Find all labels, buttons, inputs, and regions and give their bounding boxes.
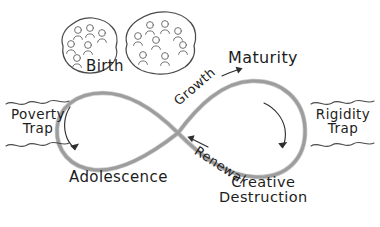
right-loop-rotation-arrow [264,103,287,149]
adaptive-cycle-diagram: Birth Maturity Adolescence Creative Dest… [0,0,380,227]
label-birth: Birth [86,59,124,74]
label-maturity: Maturity [228,50,298,66]
label-poverty-trap: Poverty Trap [6,108,70,136]
growth-arrow [222,67,243,76]
label-poverty-trap-line2: Trap [6,122,70,136]
label-rigidity-trap-line2: Trap [311,122,375,136]
label-adolescence: Adolescence [69,170,168,185]
label-creative-destruction-line2: Destruction [219,190,308,205]
label-rigidity-trap: Rigidity Trap [311,108,375,136]
right-people-blob [126,12,196,74]
